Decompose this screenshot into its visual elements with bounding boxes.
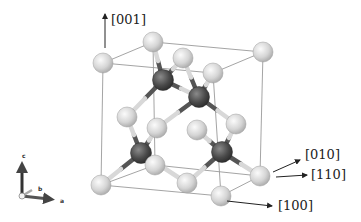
dark-atom [212, 142, 233, 163]
crystal-structure-diagram [0, 0, 361, 222]
direction-arrow [273, 160, 300, 172]
direction-label-010: [010] [305, 148, 340, 161]
dark-atom [153, 70, 174, 91]
light-atom [203, 63, 223, 83]
cell-edge [213, 73, 221, 196]
axis-origin [19, 193, 25, 199]
cell-edge [153, 42, 155, 165]
axis-label-a: a [60, 198, 64, 204]
direction-arrow [276, 175, 307, 177]
light-atom [177, 173, 197, 193]
direction-label-001: [001] [111, 13, 146, 26]
axis-a-arrow [22, 196, 49, 199]
cell-edge [101, 185, 221, 196]
light-atom [93, 53, 113, 73]
light-atom [91, 175, 111, 195]
light-atom [187, 120, 207, 140]
axes-indicator [19, 167, 49, 199]
light-atom [211, 186, 231, 206]
cell-edge [153, 42, 263, 52]
direction-label-110: [110] [311, 168, 346, 181]
axis-label-b: b [38, 186, 42, 192]
light-atom [250, 166, 270, 186]
direction-arrow [227, 201, 272, 206]
light-atom [145, 155, 165, 175]
cell-edge [260, 52, 263, 176]
atoms [91, 32, 273, 206]
cell-edge [101, 63, 103, 185]
light-atom [226, 114, 246, 134]
light-atom [117, 107, 137, 127]
light-atom [143, 32, 163, 52]
axis-label-c: c [22, 153, 26, 159]
light-atom [253, 42, 273, 62]
light-atom [173, 48, 193, 68]
light-atom [147, 118, 167, 138]
dark-atom [189, 87, 210, 108]
direction-label-100: [100] [278, 199, 313, 212]
